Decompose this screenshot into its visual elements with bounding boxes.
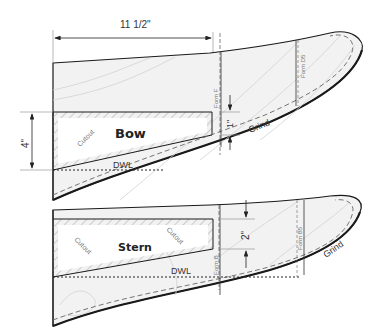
- hull-template-diagram: Bow Cutout DWL Form F Form D5 Grind 11 1…: [0, 0, 389, 336]
- length-dimension-label: 11 1/2": [120, 19, 151, 30]
- bow-dwl-label: DWL: [113, 160, 133, 170]
- stern-piece: [53, 195, 361, 326]
- stern-form-a-label: Form B: [213, 255, 219, 275]
- bow-offset-label: 1": [225, 120, 235, 128]
- stern-form-b-label: Form B5: [297, 226, 303, 250]
- stern-dwl-label: DWL: [171, 266, 191, 276]
- stern-offset-label: 2": [240, 230, 251, 240]
- bow-form-a-label: Form F: [213, 88, 219, 108]
- bow-label: Bow: [115, 126, 146, 141]
- bow-form-b-label: Form D5: [300, 54, 306, 78]
- bow-piece: [53, 32, 362, 200]
- height-dimension-label: 4": [20, 138, 31, 148]
- stern-label: Stern: [118, 241, 152, 254]
